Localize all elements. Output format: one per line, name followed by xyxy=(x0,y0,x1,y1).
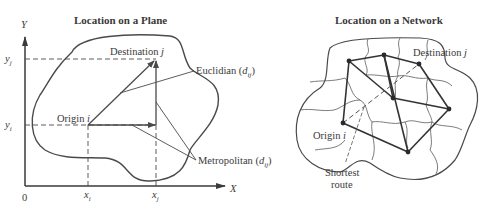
node xyxy=(406,150,411,155)
network-edges xyxy=(343,55,449,152)
y-tick-yj: yj xyxy=(4,53,12,67)
plane-title: Location on a Plane xyxy=(74,14,167,26)
origin-label: Origin i xyxy=(57,113,90,124)
metropolitan-leader-2 xyxy=(156,102,196,160)
shortest-route-leader xyxy=(345,107,364,164)
metropolitan-label: Metropolitan (dij) xyxy=(198,155,272,169)
network-title: Location on a Network xyxy=(335,14,444,26)
euclidian-leader xyxy=(120,71,194,93)
node xyxy=(347,59,352,64)
diagram-canvas: Location on a Plane Y X 0 yj yi xi xj Or… xyxy=(0,0,487,211)
node xyxy=(382,53,387,58)
network-origin-label: Origin i xyxy=(313,130,346,141)
node xyxy=(447,107,452,112)
origin-zero-label: 0 xyxy=(22,192,27,203)
shortest-route-label-line1: Shortest xyxy=(325,167,360,178)
destination-label: Destination j xyxy=(110,46,164,57)
shortest-route-line xyxy=(343,64,419,123)
node-origin xyxy=(341,121,346,126)
x-tick-xj: xj xyxy=(151,189,159,203)
x-tick-xi: xi xyxy=(83,189,91,203)
metropolitan-leader-1 xyxy=(132,125,196,160)
network-panel: Location on a Network xyxy=(296,14,477,190)
x-axis-label: X xyxy=(229,183,237,194)
plane-panel: Location on a Plane Y X 0 yj yi xi xj Or… xyxy=(4,14,272,203)
y-tick-yi: yi xyxy=(4,119,12,133)
network-destination-label: Destination j xyxy=(413,47,467,58)
shortest-route-label-line2: route xyxy=(331,179,353,190)
y-axis-label: Y xyxy=(21,19,28,30)
node-destination xyxy=(417,62,422,67)
node xyxy=(391,96,396,101)
euclidian-label: Euclidian (dij) xyxy=(196,65,256,79)
